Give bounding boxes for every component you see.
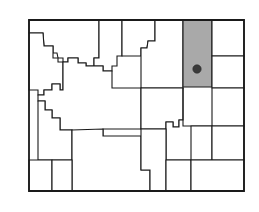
county-platte (191, 126, 212, 160)
county-weston (212, 56, 244, 88)
county-seat-marker-icon (193, 65, 201, 73)
counties-layer (29, 20, 244, 191)
county-albany (166, 160, 191, 191)
county-laramie (191, 160, 244, 191)
county-sweetwater (72, 129, 150, 191)
county-uinta (29, 160, 52, 191)
county-goshen (212, 126, 244, 160)
county-lincoln-s (52, 160, 72, 191)
county-campbell (183, 20, 212, 87)
county-niobrara (212, 88, 244, 126)
county-natrona (141, 88, 183, 129)
county-crook (212, 20, 244, 56)
map-svg (0, 0, 259, 212)
county-locator-map-figure (0, 0, 259, 212)
